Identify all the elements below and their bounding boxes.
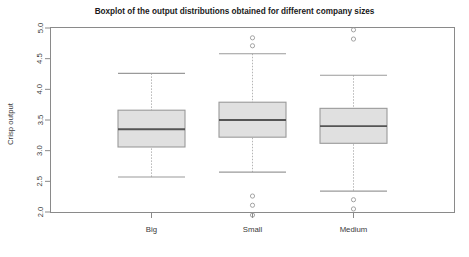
y-tick-label: 5.0 — [36, 23, 45, 34]
y-tick-label: 3.0 — [36, 145, 45, 156]
chart-title: Boxplot of the output distributions obta… — [95, 7, 375, 16]
x-tick-label: Small — [243, 225, 263, 234]
y-tick-label: 2.5 — [36, 176, 45, 187]
y-tick-label: 4.5 — [36, 53, 45, 64]
boxplot-svg: Boxplot of the output distributions obta… — [0, 0, 469, 257]
boxplot-figure: Boxplot of the output distributions obta… — [0, 0, 469, 257]
y-axis-title: Crisp output — [6, 102, 15, 145]
y-tick-label: 3.5 — [36, 115, 45, 126]
x-tick-label: Medium — [340, 225, 368, 234]
y-tick-label: 4.0 — [36, 84, 45, 95]
y-tick-label: 2.0 — [36, 207, 45, 218]
x-tick-label: Big — [146, 225, 157, 234]
